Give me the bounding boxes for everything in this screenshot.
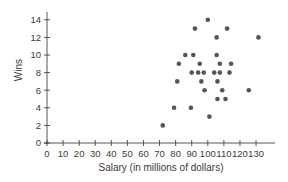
y-tick-label: 4	[36, 102, 41, 113]
y-axis: 02468101214	[30, 12, 50, 148]
data-point	[215, 79, 220, 84]
data-point	[207, 114, 212, 119]
data-point	[175, 79, 180, 84]
data-point	[214, 53, 219, 58]
x-tick-label: 0	[44, 148, 49, 159]
data-point	[183, 53, 188, 58]
data-point	[229, 62, 234, 67]
y-tick-label: 14	[30, 14, 41, 25]
data-point	[206, 18, 211, 23]
scatter-chart: 02468101214 0102030405060708090100110120…	[0, 0, 288, 182]
x-tick-label: 10	[58, 148, 69, 159]
x-tick-label: 120	[232, 148, 248, 159]
y-tick-label: 6	[36, 85, 41, 96]
x-tick-label: 100	[200, 148, 216, 159]
data-point	[172, 106, 177, 111]
data-point	[201, 70, 206, 75]
x-tick-label: 110	[216, 148, 231, 159]
y-tick-label: 12	[30, 32, 41, 43]
data-point	[227, 70, 232, 75]
x-axis: 0102030405060708090100110120130	[44, 140, 275, 159]
y-tick-label: 10	[30, 49, 41, 60]
x-tick-label: 20	[74, 148, 85, 159]
y-tick-label: 0	[36, 137, 41, 148]
x-tick-label: 50	[122, 148, 133, 159]
data-point	[199, 79, 204, 84]
data-point	[197, 62, 202, 67]
x-tick-label: 30	[90, 148, 101, 159]
data-point	[177, 62, 182, 67]
data-point	[218, 62, 223, 67]
data-point	[220, 88, 225, 93]
x-tick-label: 70	[154, 148, 165, 159]
data-point	[189, 70, 194, 75]
data-point	[160, 123, 165, 128]
y-axis-title: Wins	[13, 59, 24, 81]
x-tick-label: 60	[138, 148, 149, 159]
data-point	[214, 35, 219, 40]
x-axis-title: Salary (in millions of dollars)	[98, 162, 223, 173]
data-point	[202, 88, 207, 93]
x-tick-label: 40	[106, 148, 117, 159]
data-points	[160, 18, 260, 128]
y-tick-label: 8	[36, 67, 41, 78]
data-point	[191, 53, 196, 58]
data-point	[189, 106, 194, 111]
data-point	[256, 35, 261, 40]
data-point	[223, 97, 228, 102]
x-tick-label: 90	[186, 148, 197, 159]
data-point	[218, 70, 223, 75]
data-point	[212, 70, 217, 75]
data-point	[215, 97, 220, 102]
data-point	[193, 26, 198, 31]
x-tick-label: 80	[170, 148, 181, 159]
y-tick-label: 2	[36, 120, 41, 131]
data-point	[247, 88, 252, 93]
data-point	[196, 70, 201, 75]
x-tick-label: 130	[248, 148, 264, 159]
data-point	[225, 26, 230, 31]
